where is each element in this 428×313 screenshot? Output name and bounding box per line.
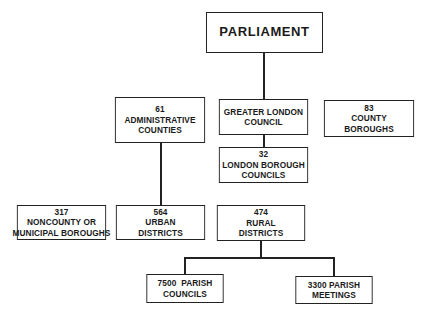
node-label: COUNTIES <box>138 125 182 136</box>
node-county-boroughs: 83 COUNTY BOROUGHS <box>324 100 414 137</box>
node-parliament: PARLIAMENT <box>206 12 323 53</box>
node-london-borough-councils: 32 LONDON BOROUGH COUNCILS <box>219 147 308 183</box>
node-label: MUNICIPAL BOROUGHS <box>13 228 111 239</box>
node-label: BOROUGHS <box>344 124 394 135</box>
node-count: 83 <box>364 103 373 114</box>
node-label: URBAN <box>145 217 175 228</box>
node-count: 564 <box>153 207 167 218</box>
node-label: ADMINISTRATIVE <box>124 115 195 126</box>
node-label: GREATER LONDON <box>224 107 303 118</box>
connector-parish-councils <box>184 257 186 274</box>
node-label: NONCOUNTY OR <box>27 217 96 228</box>
node-count: 317 <box>54 207 68 218</box>
node-count: 61 <box>155 104 164 115</box>
node-count: 474 <box>254 207 268 218</box>
node-label: COUNTY <box>351 113 387 124</box>
node-parish-meetings: 3300 PARISH MEETINGS <box>295 276 372 304</box>
connector-parliament-glc <box>263 53 265 99</box>
node-label: LONDON BOROUGH <box>222 160 305 171</box>
node-administrative-counties: 61 ADMINISTRATIVE COUNTIES <box>115 97 205 143</box>
node-label: 3300 PARISH <box>308 280 360 291</box>
node-label: DISTRICTS <box>239 228 284 239</box>
connector-parish-bar <box>184 257 335 259</box>
node-label: RURAL <box>246 218 275 229</box>
node-label: 7500 PARISH <box>158 278 213 289</box>
node-label: PARLIAMENT <box>219 27 309 38</box>
node-parish-councils: 7500 PARISH COUNCILS <box>146 274 223 303</box>
node-greater-london-council: GREATER LONDON COUNCIL <box>219 99 308 135</box>
connector-parish-meetings <box>333 257 335 276</box>
node-urban-districts: 564 URBAN DISTRICTS <box>116 205 205 240</box>
node-label: COUNCILS <box>163 289 207 300</box>
node-label: MEETINGS <box>312 290 356 301</box>
connector-admin-urban <box>160 143 162 205</box>
connector-glc-london-boroughs <box>263 135 265 147</box>
node-noncounty-boroughs: 317 NONCOUNTY OR MUNICIPAL BOROUGHS <box>17 205 106 240</box>
node-label: COUNCIL <box>244 117 282 128</box>
node-rural-districts: 474 RURAL DISTRICTS <box>217 205 305 241</box>
node-label: COUNCILS <box>242 170 286 181</box>
node-count: 32 <box>259 149 268 160</box>
node-label: DISTRICTS <box>138 228 183 239</box>
